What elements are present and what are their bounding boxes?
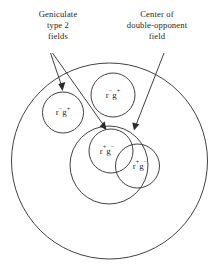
receptive-field-diagram: Geniculate type 2 fields Center of doubl… (0, 0, 219, 275)
field-label-center-g-sign: − (111, 144, 115, 151)
left-annotation-line-2: type 2 (47, 20, 69, 30)
field-label-left: r−g+ (56, 105, 71, 117)
field-label-top-g-sign: + (117, 88, 121, 95)
right-annotation-line-2: double-opponent (127, 20, 188, 30)
arrow-head-to-center-field (100, 121, 107, 130)
field-label-right-g-sign: − (144, 159, 148, 166)
left-annotation-line-1: Geniculate (39, 9, 78, 19)
diagram-canvas: Geniculate type 2 fields Center of doubl… (0, 0, 219, 275)
arrow-line-to-double-opponent-center (136, 53, 164, 125)
left-annotation-line-3: fields (48, 31, 68, 41)
right-annotation-line-3: field (149, 31, 166, 41)
geniculate-field-circle-center (89, 129, 133, 173)
field-label-center: r+g− (100, 144, 115, 156)
field-label-top: r−g+ (106, 88, 121, 100)
arrow-head-to-left-field (58, 82, 65, 91)
field-label-right: r+g− (133, 159, 148, 171)
geniculate-field-circle-right (116, 144, 160, 188)
field-label-left-g-sign: + (67, 105, 71, 112)
right-annotation-line-1: Center of (140, 9, 174, 19)
arrow-head-to-double-opponent-center (132, 123, 139, 131)
